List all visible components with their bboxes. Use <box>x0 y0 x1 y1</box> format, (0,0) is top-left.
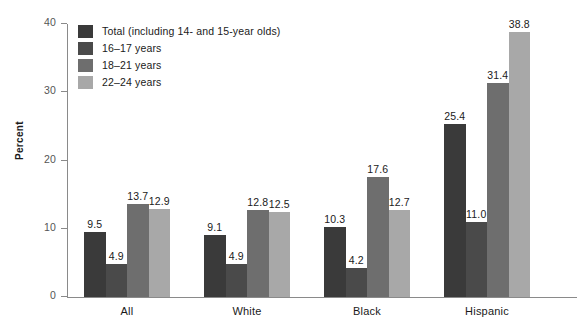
bar-value-label: 38.8 <box>498 18 540 30</box>
bar[interactable] <box>149 209 171 297</box>
legend-swatch <box>78 59 93 72</box>
x-axis-line <box>67 297 577 298</box>
legend-label: 22–24 years <box>102 76 161 88</box>
x-axis-category-label: White <box>204 305 290 317</box>
legend-item[interactable]: 22–24 years <box>78 74 280 90</box>
bar-value-label: 12.5 <box>258 198 300 210</box>
bar[interactable] <box>346 268 368 297</box>
legend-item[interactable]: 18–21 years <box>78 57 280 73</box>
y-axis-title: Percent <box>14 121 25 160</box>
bar[interactable] <box>269 212 291 297</box>
x-axis-category-label: Hispanic <box>444 305 530 317</box>
bar-group: 10.34.217.612.7Black <box>324 24 410 297</box>
bar-column[interactable]: 4.2 <box>346 24 368 297</box>
y-axis-tick-label: 0 <box>50 289 56 301</box>
bar[interactable] <box>127 204 149 298</box>
bar[interactable] <box>389 210 411 297</box>
bar[interactable] <box>367 177 389 297</box>
bar[interactable] <box>84 232 106 297</box>
legend-label: Total (including 14- and 15-year olds) <box>102 25 280 37</box>
y-axis-tick-label: 10 <box>44 221 56 233</box>
y-axis-tick-label: 30 <box>44 84 56 96</box>
bar-group-bars: 25.411.031.438.8 <box>444 24 530 297</box>
legend-item[interactable]: 16–17 years <box>78 40 280 56</box>
bar-column[interactable]: 17.6 <box>367 24 389 297</box>
bar[interactable] <box>509 32 531 297</box>
bar[interactable] <box>247 210 269 297</box>
legend-swatch <box>78 76 93 89</box>
bar-value-label: 12.7 <box>378 196 420 208</box>
bar-column[interactable]: 11.0 <box>466 24 488 297</box>
bar-chart: Percent 010203040 9.54.913.712.9All9.14.… <box>0 0 584 332</box>
legend-swatch <box>78 42 93 55</box>
legend-label: 16–17 years <box>102 42 161 54</box>
bar[interactable] <box>487 83 509 297</box>
x-axis-category-label: Black <box>324 305 410 317</box>
bar-group-bars: 10.34.217.612.7 <box>324 24 410 297</box>
bar-column[interactable]: 25.4 <box>444 24 466 297</box>
legend-swatch <box>78 25 93 38</box>
bar-column[interactable]: 38.8 <box>509 24 531 297</box>
chart-legend: Total (including 14- and 15-year olds)16… <box>78 23 280 91</box>
bar[interactable] <box>226 264 248 297</box>
bar[interactable] <box>106 264 128 297</box>
bar-column[interactable]: 12.7 <box>389 24 411 297</box>
bar[interactable] <box>466 222 488 297</box>
bar-value-label: 12.9 <box>138 195 180 207</box>
bar-group: 25.411.031.438.8Hispanic <box>444 24 530 297</box>
legend-item[interactable]: Total (including 14- and 15-year olds) <box>78 23 280 39</box>
bar[interactable] <box>204 235 226 297</box>
y-axis-tick-label: 40 <box>44 16 56 28</box>
x-axis-category-label: All <box>84 305 170 317</box>
bar-column[interactable]: 31.4 <box>487 24 509 297</box>
legend-label: 18–21 years <box>102 59 161 71</box>
y-axis-tick-label: 20 <box>44 153 56 165</box>
